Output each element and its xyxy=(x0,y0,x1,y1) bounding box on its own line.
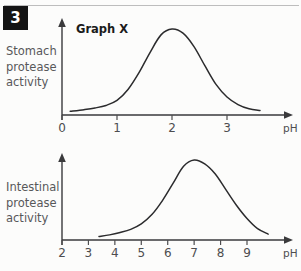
graph-x-figure: Graph X 0123 pH xyxy=(0,10,301,135)
graph-x-ph-axis-label: pH xyxy=(283,122,298,134)
graph-x-title: Graph X xyxy=(76,22,128,36)
graph-x-y-axis-arrowhead xyxy=(58,18,66,27)
tick-label: 2 xyxy=(168,121,176,135)
graph-x-x-axis-arrowhead xyxy=(284,111,293,119)
tick-label: 4 xyxy=(111,246,119,260)
graph-x-curve xyxy=(70,29,260,111)
graph-y-curve xyxy=(99,160,268,236)
graph-x-svg: 0123 pH xyxy=(0,10,301,135)
graph-y-ticks: 23456789 xyxy=(58,240,251,260)
graph-y-figure: Graph Y 23456789 pH xyxy=(0,145,301,271)
tick-label: 3 xyxy=(85,246,93,260)
tick-label: 1 xyxy=(113,121,121,135)
graph-x-ticks: 0123 xyxy=(58,115,231,135)
graph-y-axes xyxy=(58,153,293,245)
graph-y-svg: 23456789 pH xyxy=(0,145,301,271)
tick-label: 3 xyxy=(223,121,231,135)
graph-y-x-axis-arrowhead xyxy=(284,236,293,244)
tick-label: 2 xyxy=(58,246,66,260)
top-divider-rule xyxy=(4,5,299,6)
tick-label: 7 xyxy=(190,246,198,260)
tick-label: 5 xyxy=(137,246,145,260)
graph-y-ph-axis-label: pH xyxy=(283,247,298,259)
worksheet-page: 3 Stomach protease activity Graph X 0123… xyxy=(0,0,301,271)
tick-label: 8 xyxy=(217,246,225,260)
tick-label: 0 xyxy=(58,121,66,135)
tick-label: 9 xyxy=(243,246,251,260)
tick-label: 6 xyxy=(164,246,172,260)
graph-y-y-axis-arrowhead xyxy=(58,153,66,162)
